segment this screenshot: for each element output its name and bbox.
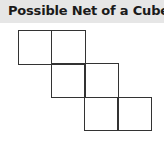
net-face-2	[51, 30, 86, 65]
net-face-3	[51, 63, 86, 98]
net-face-5	[84, 97, 119, 132]
net-face-4	[84, 63, 119, 98]
title-bar: Possible Net of a Cube	[0, 0, 164, 23]
net-face-6	[117, 97, 152, 132]
net-face-1	[18, 30, 53, 65]
diagram-title: Possible Net of a Cube	[8, 3, 164, 18]
